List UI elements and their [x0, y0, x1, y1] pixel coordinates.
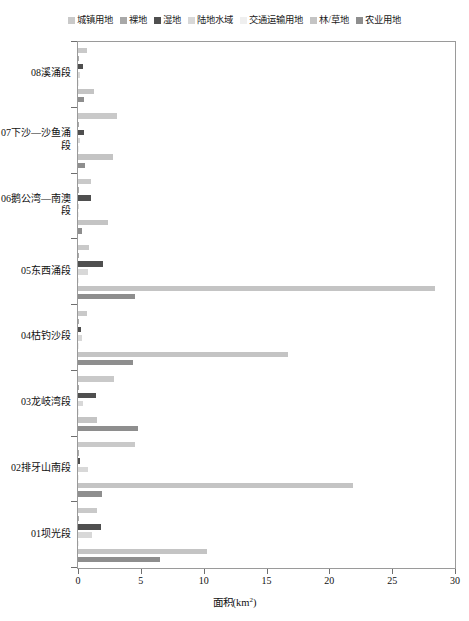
bar[interactable] — [78, 278, 79, 283]
bar[interactable] — [78, 72, 80, 77]
bar[interactable] — [78, 138, 80, 143]
bar-row — [78, 56, 455, 61]
bar[interactable] — [78, 64, 83, 69]
bar[interactable] — [78, 154, 113, 159]
legend-item[interactable]: 交通运输用地 — [240, 14, 303, 26]
bar-group — [78, 42, 455, 108]
y-axis-tick — [71, 567, 77, 568]
bar[interactable] — [78, 130, 84, 135]
bar-row — [78, 179, 455, 184]
x-axis-tick-label: 15 — [262, 574, 272, 587]
bar[interactable] — [78, 376, 114, 381]
bar[interactable] — [78, 253, 79, 258]
bar[interactable] — [78, 261, 103, 266]
bar-row — [78, 228, 455, 233]
y-axis-tick — [71, 173, 77, 174]
bar[interactable] — [78, 56, 79, 61]
y-axis-tick — [71, 238, 77, 239]
bar-row — [78, 80, 455, 85]
y-axis-label: 07下沙—沙鱼涌段 — [0, 127, 71, 152]
bar[interactable] — [78, 549, 207, 554]
legend-swatch-icon — [68, 17, 75, 24]
bar[interactable] — [78, 475, 79, 480]
bar[interactable] — [78, 220, 108, 225]
bar[interactable] — [78, 204, 79, 209]
bar-row — [78, 442, 455, 447]
legend-item[interactable]: 农业用地 — [356, 14, 401, 26]
legend-item[interactable]: 林/草地 — [310, 14, 349, 26]
bar[interactable] — [78, 187, 79, 192]
bar[interactable] — [78, 80, 79, 85]
legend-item[interactable]: 陆地水域 — [188, 14, 233, 26]
x-axis-tick-label: 30 — [450, 574, 460, 587]
y-axis-label: 06鹅公湾—南澳段 — [0, 193, 71, 218]
bar-row — [78, 343, 455, 348]
bar[interactable] — [78, 409, 79, 414]
legend-item[interactable]: 湿地 — [154, 14, 181, 26]
legend-swatch-icon — [240, 17, 247, 24]
legend-item[interactable]: 裸地 — [120, 14, 147, 26]
legend-swatch-icon — [356, 17, 363, 24]
bar-row — [78, 204, 455, 209]
bar[interactable] — [78, 89, 94, 94]
bar[interactable] — [78, 146, 79, 151]
bar-row — [78, 278, 455, 283]
bar[interactable] — [78, 286, 435, 291]
bar[interactable] — [78, 360, 133, 365]
legend-item-label: 交通运输用地 — [249, 14, 303, 26]
bar[interactable] — [78, 163, 85, 168]
legend-item[interactable]: 城镇用地 — [68, 14, 113, 26]
bar[interactable] — [78, 122, 79, 127]
bar[interactable] — [78, 245, 89, 250]
bar[interactable] — [78, 450, 79, 455]
bars-container — [78, 42, 455, 568]
bar[interactable] — [78, 541, 79, 546]
x-axis-title-main: 面积(km — [213, 597, 250, 608]
bar[interactable] — [78, 327, 81, 332]
bar[interactable] — [78, 458, 80, 463]
legend-item-label: 城镇用地 — [77, 14, 113, 26]
bar[interactable] — [78, 335, 82, 340]
bar[interactable] — [78, 269, 88, 274]
bar-row — [78, 64, 455, 69]
bar-row — [78, 409, 455, 414]
bar[interactable] — [78, 467, 88, 472]
bar[interactable] — [78, 97, 84, 102]
bar-group — [78, 502, 455, 568]
bar[interactable] — [78, 417, 97, 422]
bar[interactable] — [78, 228, 82, 233]
bar-group — [78, 371, 455, 437]
bar[interactable] — [78, 294, 135, 299]
bar[interactable] — [78, 508, 97, 513]
bar[interactable] — [78, 113, 117, 118]
legend-item-label: 湿地 — [163, 14, 181, 26]
x-axis-title: 面积(km2) — [0, 594, 469, 609]
bar[interactable] — [78, 442, 135, 447]
bar[interactable] — [78, 179, 91, 184]
bar[interactable] — [78, 483, 353, 488]
bar[interactable] — [78, 524, 101, 529]
bar[interactable] — [78, 401, 83, 406]
bar-row — [78, 541, 455, 546]
bar[interactable] — [78, 48, 87, 53]
bar[interactable] — [78, 532, 92, 537]
bar-row — [78, 122, 455, 127]
bar[interactable] — [78, 557, 160, 562]
bar-group — [78, 174, 455, 240]
bar[interactable] — [78, 385, 79, 390]
bar[interactable] — [78, 516, 79, 521]
bar[interactable] — [78, 393, 96, 398]
bar[interactable] — [78, 352, 288, 357]
bar-chart-figure: 城镇用地裸地湿地陆地水域交通运输用地林/草地农业用地 08溪涌段07下沙—沙鱼涌… — [0, 0, 469, 621]
plot-area — [77, 41, 456, 569]
bar[interactable] — [78, 212, 79, 217]
bar-row — [78, 393, 455, 398]
bar[interactable] — [78, 311, 87, 316]
bar[interactable] — [78, 491, 102, 496]
bar[interactable] — [78, 343, 79, 348]
bar[interactable] — [78, 195, 91, 200]
bar[interactable] — [78, 319, 79, 324]
bar[interactable] — [78, 426, 138, 431]
bar-row — [78, 401, 455, 406]
bar-row — [78, 335, 455, 340]
